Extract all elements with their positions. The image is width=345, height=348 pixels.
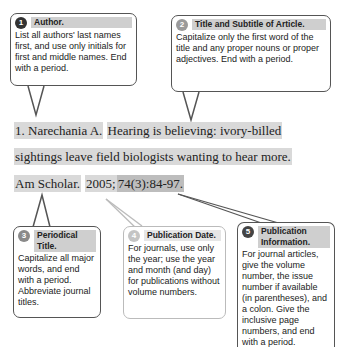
- badge-2: 2: [176, 19, 188, 31]
- callout-title-title: Title and Subtitle of Article.: [192, 19, 326, 30]
- citation-title-part2: sightings leave field biologists wanting…: [14, 148, 292, 165]
- callout-date-title: Publication Date.: [144, 230, 221, 241]
- callout-date: 4 Publication Date. For journals, use on…: [123, 226, 226, 319]
- callout-periodical: 3 Periodical Title. Capitalize all major…: [13, 226, 101, 318]
- citation-periodical: Am Scholar.: [14, 175, 81, 192]
- citation-line-2: sightings leave field biologists wanting…: [14, 149, 292, 165]
- callout-date-text: For journals, use only the year; use the…: [128, 243, 221, 298]
- callout-periodical-title: Periodical Title.: [34, 230, 96, 252]
- callout-pub-info: 5 Publication Information. For journal a…: [237, 222, 335, 347]
- badge-1: 1: [15, 17, 27, 29]
- badge-5: 5: [242, 226, 254, 238]
- callout-pub-info-title: Publication Information.: [258, 226, 330, 248]
- callout-periodical-text: Capitalize all major words, and end with…: [18, 253, 96, 308]
- callout-author-title: Author.: [31, 17, 132, 28]
- callout-author: 1 Author. List all authors' last names f…: [10, 13, 137, 86]
- callout-pub-info-text: For journal articles, give the volume nu…: [242, 249, 330, 348]
- callout-title-text: Capitalize only the first word of the ti…: [176, 32, 326, 65]
- callout-title: 2 Title and Subtitle of Article. Capital…: [171, 15, 331, 92]
- citation-line-3: Am Scholar.2005;74(3):84-97.: [14, 176, 184, 192]
- citation-line-1: 1. Narechania A. Hearing is believing: i…: [14, 123, 282, 139]
- citation-pub-info: 74(3):84-97.: [117, 175, 184, 192]
- badge-4: 4: [128, 230, 140, 242]
- callout-author-text: List all authors' last names first, and …: [15, 30, 132, 74]
- citation-date: 2005;: [85, 175, 117, 192]
- citation-author: 1. Narechania A.: [14, 122, 103, 139]
- badge-3: 3: [18, 230, 30, 242]
- citation-title-part1: Hearing is believing: ivory-billed: [107, 122, 283, 139]
